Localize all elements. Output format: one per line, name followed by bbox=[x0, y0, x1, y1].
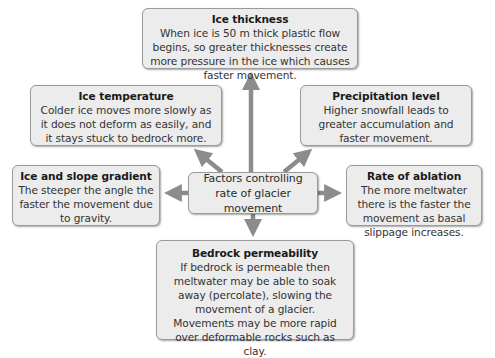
ice-slope-gradient-title: Ice and slope gradient bbox=[18, 169, 154, 183]
ice-temperature-title: Ice temperature bbox=[37, 89, 215, 103]
ice-temperature-body: Colder ice moves more slowly as it does … bbox=[37, 103, 215, 145]
rate-of-ablation-body: The more meltwater there is the faster t… bbox=[350, 183, 478, 239]
rate-of-ablation-box: Rate of ablation The more meltwater ther… bbox=[346, 165, 482, 226]
ice-thickness-body: When ice is 50 m thick plastic flow begi… bbox=[147, 26, 353, 82]
ice-temperature-box: Ice temperature Colder ice moves more sl… bbox=[30, 85, 222, 146]
ice-thickness-title: Ice thickness bbox=[147, 12, 353, 26]
ice-slope-gradient-box: Ice and slope gradient The steeper the a… bbox=[12, 165, 160, 226]
precipitation-level-box: Precipitation level Higher snowfall lead… bbox=[300, 85, 472, 146]
central-topic-label: Factors controlling rate of glacier move… bbox=[193, 171, 313, 216]
bedrock-permeability-body: If bedrock is permeable then meltwater m… bbox=[163, 260, 347, 358]
bedrock-permeability-box: Bedrock permeability If bedrock is perme… bbox=[156, 240, 354, 340]
central-topic-box: Factors controlling rate of glacier move… bbox=[188, 172, 318, 214]
ice-thickness-box: Ice thickness When ice is 50 m thick pla… bbox=[142, 8, 358, 69]
ice-slope-gradient-body: The steeper the angle the faster the mov… bbox=[18, 183, 154, 225]
bedrock-permeability-title: Bedrock permeability bbox=[163, 246, 347, 260]
precipitation-level-body: Higher snowfall leads to greater accumul… bbox=[309, 103, 463, 145]
arrow-to-ice-temperature bbox=[200, 154, 222, 172]
rate-of-ablation-title: Rate of ablation bbox=[350, 169, 478, 183]
arrow-to-precipitation bbox=[284, 154, 306, 172]
precipitation-level-title: Precipitation level bbox=[309, 89, 463, 103]
